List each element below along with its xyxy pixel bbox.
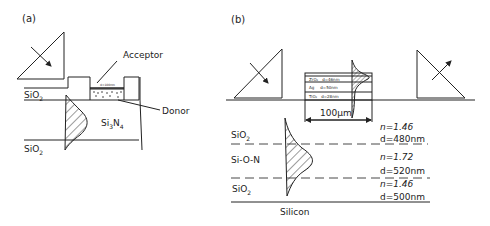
stack-row: Agd=50nm xyxy=(309,85,338,90)
svg-text:SiO2: SiO2 xyxy=(232,184,251,196)
layer-row: SiO2 n=1.46 d=500nm xyxy=(232,179,425,202)
svg-text:d=100nm: d=100nm xyxy=(100,83,115,87)
mode-profile-b xyxy=(285,118,312,196)
svg-text:n=1.72: n=1.72 xyxy=(380,152,414,162)
svg-text:d=500nm: d=500nm xyxy=(380,192,425,202)
panel-b-label: (b) xyxy=(231,14,245,25)
donor-leader xyxy=(118,100,160,110)
layer-row: SiO2 n=1.46 d=480nm xyxy=(231,122,425,144)
svg-text:SiO2: SiO2 xyxy=(231,130,250,142)
svg-text:n=1.46: n=1.46 xyxy=(380,179,414,189)
donor-label: Donor xyxy=(162,106,190,116)
acceptor-label: Acceptor xyxy=(123,50,163,60)
width-dimension: 100µm xyxy=(305,100,372,122)
light-arrow-icon xyxy=(31,47,51,66)
sio2-bottom-label: SiO2 xyxy=(24,144,43,156)
input-prism xyxy=(17,32,64,79)
input-prism-b xyxy=(234,49,282,98)
svg-text:ZrO₂d=46nm: ZrO₂d=46nm xyxy=(309,77,340,82)
plasmon-profile xyxy=(352,60,369,118)
stack-row: ZrO₂d=46nm xyxy=(309,77,340,82)
svg-text:Si-O-N: Si-O-N xyxy=(231,155,260,165)
mode-profile-a xyxy=(65,95,87,150)
output-prism-b xyxy=(417,50,465,98)
panel-a-label: (a) xyxy=(22,13,36,24)
waveguide-right-edge xyxy=(140,77,142,150)
width-label: 100µm xyxy=(320,108,352,118)
panel-b: (b) ZrO₂d=46nm Agd=50nm TiO₂d=28nm xyxy=(226,14,475,217)
diagram-canvas: (a) d=100nm Acceptor Donor xyxy=(0,0,490,226)
svg-text:n=1.46: n=1.46 xyxy=(380,122,414,132)
stack-row: TiO₂d=28nm xyxy=(308,94,339,99)
svg-text:d=480nm: d=480nm xyxy=(380,134,425,144)
outgoing-light-arrow-icon xyxy=(432,61,451,80)
svg-text:TiO₂d=28nm: TiO₂d=28nm xyxy=(308,94,339,99)
panel-a: (a) d=100nm Acceptor Donor xyxy=(17,13,190,156)
si3n4-label: Si3N4 xyxy=(101,118,124,130)
substrate-label: Silicon xyxy=(280,207,309,217)
layer-row: Si-O-N n=1.72 d=520nm xyxy=(231,152,425,176)
svg-text:Agd=50nm: Agd=50nm xyxy=(309,85,338,90)
acceptor-leader xyxy=(97,61,117,83)
acceptor-donor-cell: d=100nm xyxy=(90,83,124,100)
svg-text:d=520nm: d=520nm xyxy=(380,166,425,176)
